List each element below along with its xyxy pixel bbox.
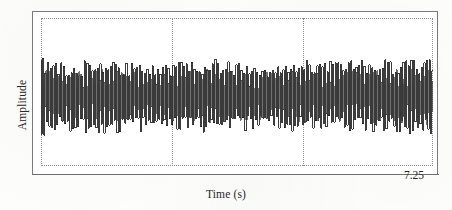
x-axis-tick-label-end: 7.25 <box>390 169 438 181</box>
waveform-figure: Amplitude 7.25 Time (s) <box>0 0 452 210</box>
y-axis-label: Amplitude <box>14 60 30 150</box>
y-axis-label-text: Amplitude <box>16 80 28 131</box>
x-axis-label: Time (s) <box>0 188 452 200</box>
plot-area[interactable] <box>32 11 438 175</box>
